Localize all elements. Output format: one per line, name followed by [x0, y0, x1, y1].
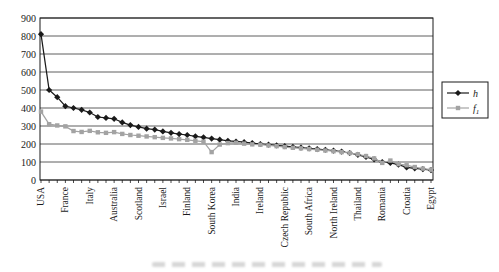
- series-marker-square: [266, 143, 270, 147]
- series-marker-square: [144, 134, 148, 138]
- series-marker-square: [388, 158, 392, 162]
- series-marker-square: [47, 122, 51, 126]
- x-axis-label: India: [231, 186, 241, 206]
- series-marker-square: [364, 154, 368, 158]
- x-axis-label: Finland: [182, 187, 192, 216]
- series-marker-square: [299, 146, 303, 150]
- series-marker-square: [291, 146, 295, 150]
- plot-border: [40, 18, 433, 180]
- series-marker-diamond: [192, 133, 198, 139]
- series-marker-square: [120, 132, 124, 136]
- x-axis-label: South Korea: [207, 186, 217, 235]
- series-marker-diamond: [95, 114, 101, 120]
- series-marker-square: [153, 135, 157, 139]
- y-tick-label: 900: [21, 13, 36, 24]
- series-marker-diamond: [119, 119, 125, 125]
- y-tick-label: 800: [21, 31, 36, 42]
- series-marker-square: [104, 131, 108, 135]
- x-axis-label: Australia: [109, 186, 119, 222]
- series-marker-square: [169, 136, 173, 140]
- series-marker-diamond: [144, 126, 150, 132]
- series-marker-diamond: [176, 131, 182, 137]
- y-tick-label: 100: [21, 157, 36, 168]
- series-marker-square: [177, 137, 181, 141]
- series-marker-square: [274, 144, 278, 148]
- series-marker-square: [242, 141, 246, 145]
- series-marker-diamond: [70, 105, 76, 111]
- series-marker-square: [348, 151, 352, 155]
- series-marker-diamond: [111, 116, 117, 122]
- series-marker-square: [339, 150, 343, 154]
- series-marker-square: [307, 147, 311, 151]
- legend-box: [442, 82, 488, 118]
- y-tick-label: 200: [21, 139, 36, 150]
- series-marker-square: [185, 138, 189, 142]
- x-axis-label: Israel: [158, 187, 168, 208]
- series-marker-diamond: [217, 137, 223, 143]
- series-marker-diamond: [184, 132, 190, 138]
- series-marker-square: [396, 162, 400, 166]
- series-marker-square: [258, 143, 262, 147]
- x-axis-label: Thailand: [353, 187, 363, 221]
- figure-page: 0100200300400500600700800900USAFranceIta…: [0, 0, 499, 272]
- series-marker-square: [193, 139, 197, 143]
- series-marker-square: [234, 141, 238, 145]
- series-marker-square: [112, 130, 116, 134]
- series-marker-square: [39, 109, 43, 113]
- series-marker-square: [71, 129, 75, 133]
- series-h-line: [41, 34, 431, 170]
- series-marker-diamond: [168, 130, 174, 136]
- series-marker-square: [63, 124, 67, 128]
- series-marker-square: [136, 134, 140, 138]
- series-marker-diamond: [127, 122, 133, 128]
- series-marker-diamond: [160, 128, 166, 134]
- y-tick-label: 700: [21, 49, 36, 60]
- series-marker-square: [209, 150, 213, 154]
- series-marker-square: [315, 148, 319, 152]
- x-axis-label: USA: [36, 187, 46, 206]
- x-axis-label: Egypt: [426, 187, 436, 210]
- x-axis-label: Scotland: [134, 187, 144, 220]
- x-axis-label: North Ireland: [329, 187, 339, 239]
- series-marker-square: [88, 129, 92, 133]
- series-marker-square: [79, 130, 83, 134]
- series-marker-square: [356, 152, 360, 156]
- series-marker-square: [201, 139, 205, 143]
- series-marker-diamond: [103, 115, 109, 121]
- x-axis-label: France: [60, 187, 70, 213]
- series-marker-square: [413, 165, 417, 169]
- x-axis-label: South Africa: [304, 186, 314, 235]
- series-marker-square: [331, 149, 335, 153]
- x-axis-label: Ireland: [255, 187, 265, 214]
- series-marker-square: [323, 148, 327, 152]
- legend-label-h: h: [473, 88, 478, 99]
- country-h-index-line-chart: 0100200300400500600700800900USAFranceIta…: [0, 0, 499, 255]
- series-marker-diamond: [135, 124, 141, 130]
- series-marker-square: [372, 156, 376, 160]
- x-axis-label: Croatia: [402, 186, 412, 215]
- series-marker-diamond: [87, 109, 93, 115]
- series-marker-square: [128, 133, 132, 137]
- series-marker-square: [161, 136, 165, 140]
- y-tick-label: 0: [31, 175, 36, 186]
- series-marker-square: [250, 142, 254, 146]
- y-tick-label: 500: [21, 85, 36, 96]
- x-axis-label: Romania: [377, 186, 387, 221]
- series-marker-square: [404, 163, 408, 167]
- series-marker-diamond: [152, 127, 158, 133]
- series-marker-diamond: [209, 136, 215, 142]
- series-marker-square: [456, 106, 460, 110]
- x-axis-label: Czech Republic: [280, 187, 290, 247]
- series-marker-square: [283, 145, 287, 149]
- y-tick-label: 400: [21, 103, 36, 114]
- series-marker-square: [380, 161, 384, 165]
- y-tick-label: 300: [21, 121, 36, 132]
- series-marker-square: [226, 141, 230, 145]
- cropped-caption-smudge: [152, 262, 382, 267]
- y-tick-label: 600: [21, 67, 36, 78]
- series-marker-square: [421, 166, 425, 170]
- x-axis-label: Italy: [85, 187, 95, 205]
- series-marker-square: [55, 123, 59, 127]
- series-marker-square: [218, 142, 222, 146]
- series-marker-square: [429, 168, 433, 172]
